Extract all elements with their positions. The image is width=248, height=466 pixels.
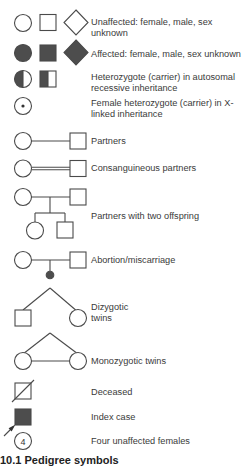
affected-female-icon [15, 45, 32, 62]
label-monozygotic: Monozygotic twins [91, 356, 248, 367]
label-deceased: Deceased [91, 387, 248, 398]
consanguineous-partners-icon [15, 160, 87, 177]
unaffected-unknown-sex-icon [64, 10, 88, 35]
partners-with-offspring-icon [15, 189, 87, 240]
deceased-icon [12, 380, 34, 402]
unaffected-male-icon [40, 15, 56, 31]
abortion-miscarriage-icon [15, 252, 87, 279]
affected-unknown-sex-icon [64, 40, 88, 65]
index-case-icon [4, 409, 31, 436]
x-linked-carrier-female-icon [15, 98, 32, 115]
label-index-case: Index case [91, 412, 248, 423]
figure-caption: 10.1 Pedigree symbols [0, 454, 119, 466]
label-autosomal-carrier: Heterozygote (carrier) in autosomal rece… [91, 72, 248, 94]
dizygotic-twins-icon [15, 288, 87, 327]
affected-male-icon [40, 45, 56, 61]
carrier-male-half-icon [40, 71, 56, 87]
label-abortion: Abortion/miscarriage [91, 255, 248, 266]
carrier-female-half-icon [15, 71, 32, 88]
label-two-offspring: Partners with two offspring [91, 211, 248, 222]
label-x-linked-carrier: Female heterozygote (carrier) in X-linke… [91, 98, 248, 120]
label-consanguineous: Consanguineous partners [91, 163, 248, 174]
label-affected: Affected: female, male, sex unknown [91, 49, 248, 60]
label-unaffected: Unaffected: female, male, sex unknown [91, 17, 248, 39]
label-dizygotic: Dizygotic twins [91, 302, 131, 324]
label-four-females: Four unaffected females [91, 436, 248, 447]
partners-icon [15, 133, 87, 150]
unaffected-female-icon [15, 15, 32, 32]
count-number: 4 [20, 437, 25, 447]
label-partners: Partners [91, 136, 248, 147]
monozygotic-twins-icon [15, 333, 87, 370]
